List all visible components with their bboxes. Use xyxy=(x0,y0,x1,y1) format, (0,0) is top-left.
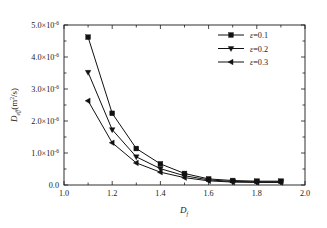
x-tick-label: 1.6 xyxy=(203,189,213,198)
y-tick-label: 4.0×10-6 xyxy=(31,52,59,62)
figure-container: 1.01.21.41.61.82.0 0.01.0×10-62.0×10-63.… xyxy=(0,0,327,228)
series-polyline xyxy=(88,101,281,183)
legend-entry-2: ε=0.2 xyxy=(218,45,268,54)
x-tick-label: 2.0 xyxy=(300,189,310,198)
series-2 xyxy=(85,70,283,184)
y-axis-tick-labels: 0.01.0×10-62.0×10-63.0×10-64.0×10-65.0×1… xyxy=(31,20,59,190)
y-tick-label: 5.0×10-6 xyxy=(31,20,59,30)
y-axis-ticks xyxy=(64,25,305,185)
legend-label: ε=0.3 xyxy=(250,58,268,67)
legend-entry-3: ε=0.3 xyxy=(218,58,268,67)
legend-entry-1: ε=0.1 xyxy=(218,31,268,40)
y-tick-label: 2.0×10-6 xyxy=(31,116,59,126)
x-tick-label: 1.8 xyxy=(252,189,262,198)
y-axis-title: Deff(m2/s) xyxy=(9,88,21,123)
legend-label: ε=0.1 xyxy=(250,31,268,40)
x-axis-title: Df xyxy=(179,205,190,217)
x-tick-label: 1.2 xyxy=(107,189,117,198)
series-polyline xyxy=(88,72,281,181)
chart-legend: ε=0.1ε=0.2ε=0.3 xyxy=(218,31,268,67)
series-marker xyxy=(110,111,115,116)
x-tick-label: 1.4 xyxy=(155,189,165,198)
plot-frame xyxy=(64,25,305,185)
y-tick-label: 1.0×10-6 xyxy=(31,148,59,158)
series-marker xyxy=(109,140,114,146)
legend-marker xyxy=(229,33,234,38)
chart-canvas: 1.01.21.41.61.82.0 0.01.0×10-62.0×10-63.… xyxy=(0,0,327,228)
legend-label: ε=0.2 xyxy=(250,45,268,54)
series-marker xyxy=(158,161,163,166)
series-marker xyxy=(134,146,139,151)
x-axis-ticks xyxy=(64,25,305,185)
series-marker xyxy=(85,98,90,104)
y-tick-label: 3.0×10-6 xyxy=(31,84,59,94)
legend-marker xyxy=(228,59,233,65)
x-axis-tick-labels: 1.01.21.41.61.82.0 xyxy=(59,189,310,198)
series-marker xyxy=(85,70,91,75)
x-tick-label: 1.0 xyxy=(59,189,69,198)
series-marker xyxy=(86,35,91,40)
y-tick-label: 0.0 xyxy=(49,181,59,190)
